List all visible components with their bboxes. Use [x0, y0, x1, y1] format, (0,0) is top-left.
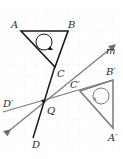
label-a: A	[10, 19, 18, 30]
label-b-prime: B′	[105, 66, 116, 77]
label-m: m	[106, 45, 115, 56]
label-d-prime: D′	[2, 98, 14, 109]
label-q: Q	[47, 105, 55, 116]
label-c-prime: C′	[70, 79, 81, 90]
label-a-prime: A′	[107, 132, 118, 143]
label-c: C	[57, 68, 65, 79]
reflection-diagram: A B C m B′ C′ D′ Q A′ D	[0, 0, 123, 159]
label-d: D	[31, 139, 40, 150]
label-b: B	[67, 19, 75, 30]
point-q	[42, 100, 45, 103]
